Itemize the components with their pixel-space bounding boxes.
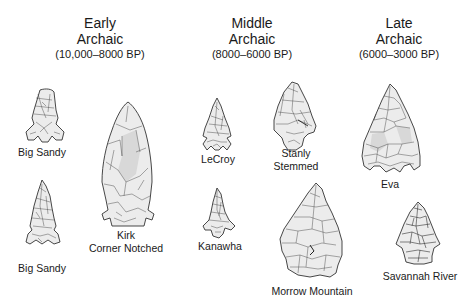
- label-line: Corner Notched: [89, 242, 163, 254]
- period-range: (10,000–8000 BP): [45, 48, 155, 60]
- period-subtitle: Archaic: [197, 32, 307, 48]
- morrow-mountain-point-illustration: [276, 181, 346, 283]
- period-title: Middle: [197, 16, 307, 32]
- label-line: Stanly: [281, 147, 310, 159]
- point-label-big-sandy-2: Big Sandy: [2, 262, 82, 275]
- big-sandy-point-illustration: [18, 178, 68, 250]
- period-range: (8000–6000 BP): [197, 48, 307, 60]
- period-title: Late: [344, 16, 454, 32]
- period-subtitle: Archaic: [344, 32, 454, 48]
- header-middle-archaic: Middle Archaic (8000–6000 BP): [197, 16, 307, 61]
- point-label-eva: Eva: [370, 178, 410, 191]
- point-label-lecroy: LeCroy: [192, 153, 244, 166]
- point-label-kanawha: Kanawha: [190, 240, 250, 253]
- big-sandy-point-illustration: [22, 88, 68, 148]
- header-late-archaic: Late Archaic (6000–3000 BP): [344, 16, 454, 61]
- kirk-corner-notched-point-illustration: [96, 100, 158, 232]
- point-label-morrow-mountain: Morrow Mountain: [262, 285, 362, 298]
- period-range: (6000–3000 BP): [344, 48, 454, 60]
- label-line: Stemmed: [274, 160, 319, 172]
- header-early-archaic: Early Archaic (10,000–8000 BP): [45, 16, 155, 61]
- period-title: Early: [45, 16, 155, 32]
- point-label-stanly-stemmed: Stanly Stemmed: [264, 147, 328, 173]
- lecroy-point-illustration: [197, 96, 237, 152]
- point-label-savannah-river: Savannah River: [370, 270, 470, 283]
- eva-point-illustration: [356, 82, 426, 176]
- savannah-river-point-illustration: [392, 200, 444, 266]
- label-line: Kirk: [117, 229, 135, 241]
- stanly-stemmed-point-illustration: [268, 80, 324, 152]
- point-label-big-sandy-1: Big Sandy: [2, 146, 82, 159]
- period-subtitle: Archaic: [45, 32, 155, 48]
- point-label-kirk-corner-notched: Kirk Corner Notched: [76, 229, 176, 255]
- kanawha-point-illustration: [199, 186, 239, 240]
